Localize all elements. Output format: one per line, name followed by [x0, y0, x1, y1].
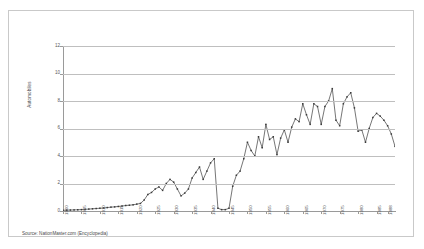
- gridline: [63, 46, 395, 47]
- gridline: [63, 74, 395, 75]
- x-axis-tick-label: 1900: [65, 205, 69, 215]
- x-axis-tick-label: 1975: [341, 205, 345, 215]
- gridline: [63, 129, 395, 130]
- y-axis-tick-label: 10: [38, 71, 60, 76]
- x-axis-tick-label: 1960: [286, 205, 290, 215]
- y-axis-tick-mark: [60, 129, 63, 130]
- x-axis-tick-label: 1945: [231, 205, 235, 215]
- x-axis-tick-label: 1905: [83, 205, 87, 215]
- x-axis-tick-label: 1965: [305, 205, 309, 215]
- x-axis-tick-label: 1988: [389, 205, 393, 215]
- x-axis-tick-label: 1920: [139, 205, 143, 215]
- y-axis-tick-label: 2: [38, 181, 60, 186]
- gridline: [63, 184, 395, 185]
- gridline: [63, 156, 395, 157]
- y-axis-title: Automobiles: [27, 65, 32, 125]
- y-axis-tick-mark: [60, 101, 63, 102]
- y-axis-tick-label: 4: [38, 154, 60, 159]
- gridline: [63, 101, 395, 102]
- y-axis-tick-mark: [60, 74, 63, 75]
- x-axis-tick-label: 1955: [268, 205, 272, 215]
- x-axis-tick-label: 1930: [175, 205, 179, 215]
- y-axis-tick-label: 8: [38, 99, 60, 104]
- y-axis-tick-labels: 024681012: [36, 0, 60, 249]
- chart-container: Automobiles 024681012 Source: NationMast…: [0, 0, 424, 249]
- y-axis-tick-mark: [60, 46, 63, 47]
- x-axis-tick-label: 1915: [120, 205, 124, 215]
- y-axis-tick-mark: [60, 156, 63, 157]
- x-axis-tick-label: 1980: [360, 205, 364, 215]
- x-axis-tick-label: 1950: [249, 205, 253, 215]
- y-axis-tick-label: 12: [38, 44, 60, 49]
- x-axis-tick-label: 1985: [378, 205, 382, 215]
- x-axis-tick-label: 1970: [323, 205, 327, 215]
- x-axis-tick-label: 1925: [157, 205, 161, 215]
- x-axis-tick-label: 1910: [102, 205, 106, 215]
- y-axis-tick-label: 6: [38, 126, 60, 131]
- y-axis-tick-mark: [60, 184, 63, 185]
- source-note: Source: NationMaster.com (Encyclopedia): [22, 231, 108, 236]
- x-axis-tick-label: 1935: [194, 205, 198, 215]
- y-axis-tick-label: 0: [38, 209, 60, 214]
- x-axis-tick-label: 1940: [212, 205, 216, 215]
